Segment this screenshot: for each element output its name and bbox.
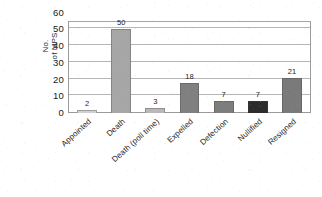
- x-axis-category: Defection: [207, 114, 241, 196]
- bar-slot: 7: [241, 21, 275, 113]
- y-axis-tick-label: 40: [42, 41, 64, 51]
- bar-chart: No. of MPS 6050403020100 2503187721 Appo…: [0, 0, 322, 197]
- bar-value-label: 18: [185, 73, 193, 81]
- x-axis-category-label: Appointed: [60, 117, 93, 148]
- x-axis-category-labels: AppointedDeathDeath (poll time)ExpelledD…: [68, 114, 311, 196]
- y-axis-tick-label: 0: [42, 108, 64, 118]
- bar[interactable]: 18: [180, 83, 200, 113]
- y-axis-tick-label: 10: [42, 92, 64, 102]
- bar-slot: 21: [275, 21, 309, 113]
- bar-value-label: 3: [153, 98, 157, 106]
- x-axis-category: Appointed: [70, 114, 104, 196]
- y-axis-tick-label: 50: [42, 25, 64, 35]
- x-axis-category: Death (poll time): [138, 114, 172, 196]
- x-axis-category: Resigned: [275, 114, 309, 196]
- bar[interactable]: 7: [214, 101, 234, 113]
- x-axis-category: Expelled: [172, 114, 206, 196]
- bar-value-label: 2: [85, 100, 89, 108]
- bar-slot: 7: [207, 21, 241, 113]
- y-axis-tick-label: 30: [42, 58, 64, 68]
- bar-slot: 50: [104, 21, 138, 113]
- bar[interactable]: 2: [77, 110, 97, 113]
- bar-slot: 3: [138, 21, 172, 113]
- x-axis-category-label: Death: [105, 117, 127, 138]
- bar-series: 2503187721: [68, 21, 311, 113]
- bar-value-label: 50: [117, 19, 125, 27]
- bar-slot: 2: [70, 21, 104, 113]
- bar[interactable]: 7: [248, 101, 268, 113]
- bar-value-label: 21: [288, 68, 296, 76]
- x-axis-category: Nullified: [241, 114, 275, 196]
- bar[interactable]: 21: [282, 78, 302, 113]
- bar[interactable]: 3: [145, 108, 165, 113]
- x-axis-category-label: Nullified: [236, 117, 264, 143]
- y-axis-tick-label: 20: [42, 75, 64, 85]
- bar[interactable]: 50: [111, 29, 131, 113]
- bar-value-label: 7: [256, 91, 260, 99]
- y-axis-tick-labels: 6050403020100: [42, 0, 64, 197]
- y-axis-tick-label: 60: [42, 8, 64, 18]
- bar-slot: 18: [172, 21, 206, 113]
- bar-value-label: 7: [222, 91, 226, 99]
